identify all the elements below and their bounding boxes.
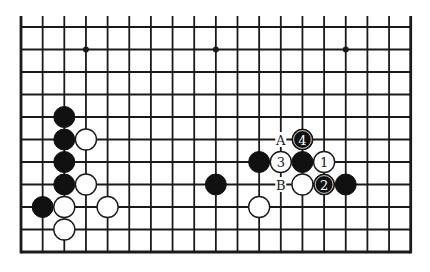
black-stone: [335, 174, 356, 195]
black-stone: [54, 152, 75, 173]
stone-disc: [205, 174, 226, 195]
white-stone: [249, 197, 270, 218]
marker-label: B: [276, 178, 286, 193]
white-stone-1: 1: [314, 152, 335, 173]
star-point: [343, 47, 349, 53]
go-board: AB 4312: [0, 0, 430, 272]
stone-disc: [97, 197, 118, 218]
star-point: [213, 47, 219, 53]
star-point: [83, 47, 89, 53]
white-stone: [292, 174, 313, 195]
stone-disc: [249, 197, 270, 218]
move-number: 3: [277, 155, 285, 170]
black-stone: [205, 174, 226, 195]
black-stone: [54, 107, 75, 128]
stone-disc: [54, 152, 75, 173]
white-stone: [75, 129, 96, 150]
black-stone: [54, 129, 75, 150]
stone-disc: [75, 129, 96, 150]
stone-disc: [54, 219, 75, 240]
stone-disc: [292, 174, 313, 195]
stone-disc: [54, 107, 75, 128]
marker-a: A: [275, 132, 286, 148]
black-stone-4: 4: [292, 129, 313, 150]
black-stone-2: 2: [314, 174, 335, 195]
white-stone: [75, 174, 96, 195]
stone-disc: [335, 174, 356, 195]
move-number: 4: [298, 133, 306, 148]
black-stone: [249, 152, 270, 173]
stone-disc: [292, 152, 313, 173]
white-stone: [97, 197, 118, 218]
move-number: 2: [320, 178, 328, 193]
stone-disc: [54, 129, 75, 150]
stone-disc: [54, 174, 75, 195]
stone-disc: [75, 174, 96, 195]
marker-b: B: [275, 177, 286, 193]
stone-disc: [249, 152, 270, 173]
black-stone: [54, 174, 75, 195]
move-number: 1: [320, 155, 328, 170]
stone-disc: [54, 197, 75, 218]
stone-disc: [32, 197, 53, 218]
white-stone: [54, 197, 75, 218]
black-stone: [32, 197, 53, 218]
white-stone: [54, 219, 75, 240]
black-stone: [292, 152, 313, 173]
white-stone-3: 3: [270, 152, 291, 173]
marker-label: A: [275, 133, 286, 148]
